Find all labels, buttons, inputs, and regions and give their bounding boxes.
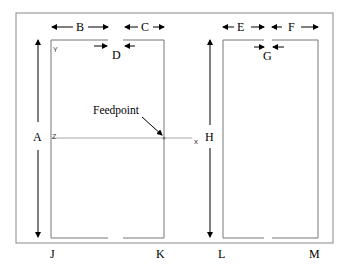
feedpoint-dot [163,137,166,140]
z-axis-marker: Z [52,133,56,140]
label-g: G [263,50,272,62]
label-j: J [50,248,55,260]
label-m: M [309,248,320,260]
y-axis-marker: Y [53,46,58,53]
x-axis-marker: x [194,138,198,145]
outer-frame [16,13,333,243]
label-b: B [76,21,84,33]
label-e: E [237,21,244,33]
label-c: C [141,21,149,33]
left-loop [51,40,164,238]
label-k: K [156,248,165,260]
feedpoint-arrow [142,117,162,135]
label-f: F [288,21,295,33]
feedpoint-label: Feedpoint [93,104,139,116]
label-l: L [218,248,225,260]
label-d: D [112,49,121,61]
label-h: H [205,131,214,143]
label-a: A [33,131,42,143]
right-loop [223,40,318,238]
